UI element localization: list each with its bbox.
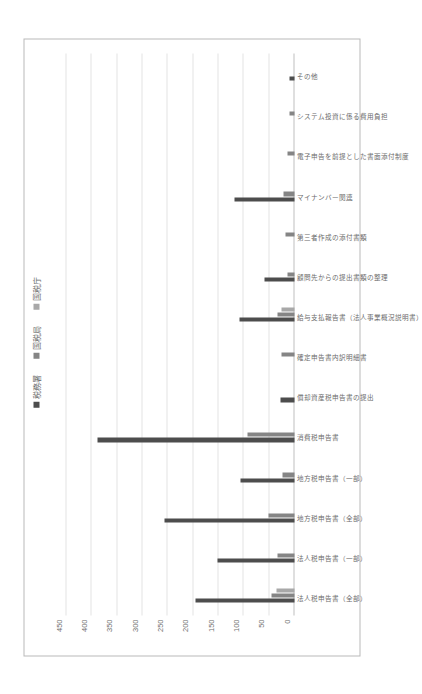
x-axis-tick-label: マイナンバー関連 [296, 194, 352, 201]
bar [289, 111, 294, 115]
bar [277, 312, 294, 316]
bar [285, 232, 294, 236]
y-axis-tick-label: 50 [257, 619, 265, 649]
bar [97, 437, 294, 441]
bar [164, 518, 294, 522]
x-axis-tick-label: 確定申告書内訳明細書 [296, 354, 366, 361]
bar [247, 432, 294, 436]
bar [217, 558, 294, 562]
x-axis-tick-label: 法人税申告書（全部） [296, 595, 366, 602]
y-axis-tick-label: 300 [131, 619, 139, 649]
x-axis-tick-label: システム投資に係る費用負担 [296, 113, 387, 120]
chart-frame: 税務署国税局国税庁 050100150200250300350400450 法人… [23, 38, 360, 656]
y-axis-tick-label: 150 [207, 619, 215, 649]
y-axis-tick-label: 250 [156, 619, 164, 649]
x-axis-label-cell: マイナンバー関連 [296, 173, 358, 213]
legend-label: 国税庁 [30, 276, 41, 300]
bar [268, 513, 294, 517]
x-axis-tick-label: 償却資産税申告書の提出 [296, 394, 373, 401]
x-axis-tick-label: 消費税申告書 [296, 434, 338, 441]
x-axis-tick-label: 電子申告を前提とした書面添付制度 [296, 153, 408, 160]
bar [234, 197, 294, 201]
bar-group [66, 535, 294, 575]
y-axis-tick-label: 450 [55, 619, 63, 649]
legend-label: 税務署 [30, 374, 41, 398]
legend-item: 税務署 [30, 374, 41, 407]
x-axis-label-cell: 第三者作成の添付書類 [296, 214, 358, 254]
bar [281, 352, 294, 356]
bar [240, 478, 294, 482]
bar [289, 76, 294, 80]
bar-group [66, 133, 294, 173]
y-axis-tick-label: 100 [232, 619, 240, 649]
x-axis-label-cell: 電子申告を前提とした書面添付制度 [296, 133, 358, 173]
legend-item: 国税局 [30, 325, 41, 358]
legend-swatch-icon [33, 303, 39, 309]
bar-group [66, 454, 294, 494]
y-axis-tick-label: 0 [283, 619, 291, 649]
bar-group [66, 254, 294, 294]
x-axis-label-cell: 給与支払報告書（法人事業概況説明書） [296, 294, 358, 334]
bar-group [66, 334, 294, 374]
legend-item: 国税庁 [30, 276, 41, 309]
legend-swatch-icon [33, 352, 39, 358]
x-axis-tick-label: 第三者作成の添付書類 [296, 234, 366, 241]
x-axis-label-cell: 確定申告書内訳明細書 [296, 334, 358, 374]
bar-group [66, 575, 294, 615]
bar-group [66, 173, 294, 213]
x-axis-tick-label: 地方税申告書（一部） [296, 475, 366, 482]
bar-group [66, 374, 294, 414]
x-axis-tick-label: 給与支払報告書（法人事業概況説明書） [296, 314, 422, 321]
bar [282, 472, 294, 476]
y-axis-tick-label: 350 [105, 619, 113, 649]
bar-group [66, 495, 294, 535]
legend-swatch-icon [33, 401, 39, 407]
x-axis-labels: 法人税申告書（全部）法人税申告書（一部）地方税申告書（全部）地方税申告書（一部）… [296, 53, 358, 615]
x-axis-label-cell: 顧問先からの提出書類の整理 [296, 254, 358, 294]
x-axis-label-cell: 地方税申告書（一部） [296, 454, 358, 494]
bar-group [66, 414, 294, 454]
x-axis-label-cell: 法人税申告書（一部） [296, 535, 358, 575]
bar-group [66, 214, 294, 254]
bar-group [66, 53, 294, 93]
bar [239, 317, 294, 321]
bar [287, 151, 294, 155]
x-axis-label-cell: 地方税申告書（全部） [296, 495, 358, 535]
y-axis-tick-label: 400 [80, 619, 88, 649]
bar [281, 307, 294, 311]
bar [280, 397, 294, 401]
bar [276, 588, 294, 592]
bar-group [66, 294, 294, 334]
bar [283, 191, 294, 195]
rotated-chart-container: 税務署国税局国税庁 050100150200250300350400450 法人… [23, 38, 360, 656]
bar-group [66, 93, 294, 133]
x-axis-label-cell: システム投資に係る費用負担 [296, 93, 358, 133]
x-axis-label-cell: その他 [296, 53, 358, 93]
x-axis-tick-label: 地方税申告書（全部） [296, 515, 366, 522]
x-axis-tick-label: 顧問先からの提出書類の整理 [296, 274, 387, 281]
bar [264, 277, 294, 281]
chart-legend: 税務署国税局国税庁 [30, 276, 41, 407]
bar [195, 598, 294, 602]
plot-area: 050100150200250300350400450 [66, 53, 294, 615]
legend-label: 国税局 [30, 325, 41, 349]
bar [287, 272, 294, 276]
bar-groups [66, 53, 294, 615]
x-axis-tick-label: その他 [296, 73, 317, 80]
y-axis-tick-label: 200 [181, 619, 189, 649]
bar [277, 553, 294, 557]
x-axis-tick-label: 法人税申告書（一部） [296, 555, 366, 562]
x-axis-label-cell: 消費税申告書 [296, 414, 358, 454]
x-axis-label-cell: 償却資産税申告書の提出 [296, 374, 358, 414]
bar [271, 593, 294, 597]
x-axis-label-cell: 法人税申告書（全部） [296, 575, 358, 615]
